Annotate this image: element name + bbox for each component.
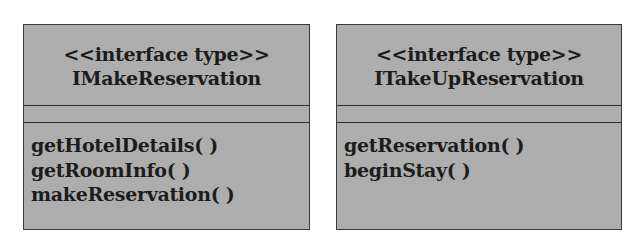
attributes-compartment — [337, 106, 621, 123]
operation: getHotelDetails( ) — [31, 133, 309, 158]
class-name: IMakeReservation — [72, 66, 261, 90]
operation: getReservation( ) — [344, 133, 621, 158]
operations-compartment: getHotelDetails( ) getRoomInfo( ) makeRe… — [24, 123, 309, 229]
operations-compartment: getReservation( ) beginStay( ) — [337, 123, 621, 229]
operation: beginStay( ) — [344, 158, 621, 183]
class-name-compartment: <<interface type>> IMakeReservation — [24, 25, 309, 106]
class-name-compartment: <<interface type>> ITakeUpReservation — [337, 25, 621, 106]
class-name: ITakeUpReservation — [374, 66, 584, 90]
stereotype-label: <<interface type>> — [376, 42, 582, 66]
uml-class-imakereservation: <<interface type>> IMakeReservation getH… — [23, 24, 310, 230]
operation: getRoomInfo( ) — [31, 158, 309, 183]
uml-class-itakeupreservation: <<interface type>> ITakeUpReservation ge… — [336, 24, 622, 230]
attributes-compartment — [24, 106, 309, 123]
operation: makeReservation( ) — [31, 182, 309, 207]
stereotype-label: <<interface type>> — [63, 42, 269, 66]
